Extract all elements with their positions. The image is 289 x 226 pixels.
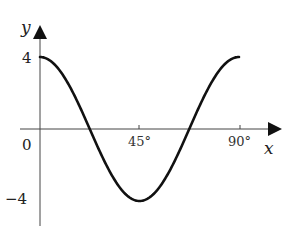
x-tick-label-90: 90° [228, 134, 251, 149]
x-axis-arrow-icon [268, 122, 282, 136]
y-axis-label: y [20, 17, 31, 37]
x-tick-label-45: 45° [128, 134, 151, 149]
y-tick-label-4: 4 [22, 49, 32, 67]
x-axis-label: x [264, 138, 274, 158]
y-axis-arrow-icon [33, 25, 47, 39]
origin-label: 0 [22, 136, 32, 154]
y-tick-label-neg4: −4 [5, 190, 27, 208]
chart-canvas: y x 4 0 −4 45° 90° [0, 0, 289, 226]
